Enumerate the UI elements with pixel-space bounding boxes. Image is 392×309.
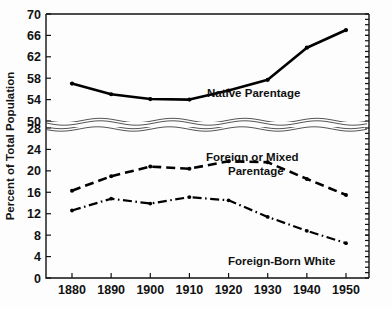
x-tick-label: 1950 [332, 283, 360, 297]
chart-container: 505458626670 0481216202428 1880189019001… [0, 0, 392, 309]
annotation-foreign-mixed-line1: Foreign or Mixed [206, 151, 299, 163]
upper-tick-label: 66 [27, 29, 41, 43]
data-point-marker [70, 81, 74, 85]
x-axis-ticks: 18801890190019101920193019401950 [58, 273, 360, 297]
population-line-chart: 505458626670 0481216202428 1880189019001… [0, 0, 392, 309]
chart-frame [46, 14, 369, 278]
data-point-marker [266, 78, 270, 82]
upper-tick-label: 58 [27, 72, 41, 86]
data-point-marker [305, 46, 309, 50]
axis-frame-lines [46, 14, 369, 278]
x-tick-label: 1890 [97, 283, 125, 297]
annotation-native-parentage: Native Parentage [207, 87, 300, 99]
axis-break-marker [47, 118, 368, 131]
annotation-foreign-mixed-line2: Parentage [228, 165, 284, 177]
data-point-marker [344, 241, 348, 245]
lower-tick-label: 24 [27, 143, 41, 157]
data-point-marker [148, 97, 152, 101]
x-tick-label: 1930 [254, 283, 282, 297]
lower-tick-label: 8 [34, 229, 41, 243]
data-point-marker [70, 189, 74, 193]
upper-tick-label: 62 [27, 50, 41, 64]
lower-tick-label: 28 [27, 122, 41, 136]
data-point-marker [305, 229, 309, 233]
x-tick-label: 1900 [136, 283, 164, 297]
x-tick-label: 1940 [293, 283, 321, 297]
data-point-marker [266, 215, 270, 219]
series-foreign-mixed-parentage [70, 159, 348, 197]
data-point-marker [188, 195, 192, 199]
lower-tick-label: 0 [34, 272, 41, 286]
upper-tick-label: 70 [27, 8, 41, 22]
data-point-marker [109, 92, 113, 96]
x-tick-label: 1920 [215, 283, 243, 297]
lower-y-axis-ticks: 0481216202428 [27, 122, 51, 286]
series-foreign-born-white [70, 195, 348, 245]
data-point-marker [227, 198, 231, 202]
data-point-marker [70, 209, 74, 213]
x-tick-label: 1910 [176, 283, 204, 297]
upper-y-axis-ticks: 505458626670 [27, 8, 51, 129]
break-gap-fill [47, 122, 368, 127]
lower-tick-label: 16 [27, 186, 41, 200]
foreign-born-white-markers [70, 195, 348, 245]
data-point-marker [187, 98, 191, 102]
data-point-marker [344, 28, 348, 32]
data-point-marker [305, 177, 309, 181]
foreign-mixed-parentage-line [72, 161, 346, 195]
lower-tick-label: 20 [27, 164, 41, 178]
lower-tick-label: 4 [34, 250, 41, 264]
data-point-marker [148, 202, 152, 206]
data-point-marker [187, 167, 191, 171]
data-point-marker [344, 193, 348, 197]
foreign-born-white-line [72, 197, 346, 243]
data-point-marker [148, 165, 152, 169]
x-tick-label: 1880 [58, 283, 86, 297]
annotation-foreign-born-white: Foreign-Born White [228, 255, 335, 267]
data-point-marker [109, 174, 113, 178]
data-point-marker [109, 197, 113, 201]
lower-tick-label: 12 [27, 207, 41, 221]
y-axis-title: Percent of Total Population [4, 72, 16, 221]
upper-tick-label: 54 [27, 93, 41, 107]
